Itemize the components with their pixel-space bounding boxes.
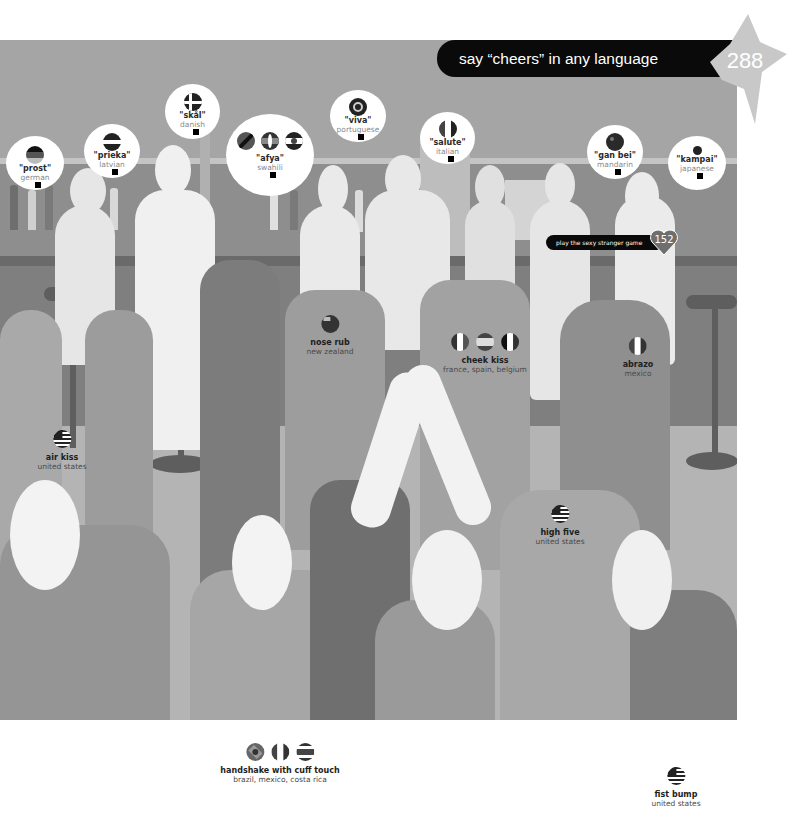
page-title-banner: say “cheers” in any language: [437, 40, 737, 77]
toast-language: portuguese: [330, 125, 386, 134]
greeting-countries: united states: [535, 537, 584, 546]
greeting-label-handshake: handshake with cuff touch brazil, mexico…: [220, 743, 339, 784]
flag-portugal-icon: [349, 98, 367, 116]
greeting-countries: united states: [651, 799, 700, 808]
toast-language: japanese: [668, 164, 726, 173]
flag-japan-icon: [693, 146, 702, 155]
greeting-title: nose rub: [306, 338, 353, 347]
greeting-title: high five: [535, 528, 584, 537]
toast-bubble-japanese: "kampai" japanese: [668, 136, 726, 190]
flag-mexico-icon: [629, 337, 647, 355]
greeting-label-cheek-kiss: cheek kiss france, spain, belgium: [443, 333, 527, 374]
toast-language: swahili: [226, 163, 314, 172]
toast-phrase: "gan bei": [587, 151, 643, 160]
toast-phrase: "kampai": [668, 155, 726, 164]
greeting-countries: france, spain, belgium: [443, 365, 527, 374]
person-head: [625, 172, 659, 220]
person-head: [612, 530, 672, 630]
bottle: [28, 190, 36, 230]
greeting-countries: united states: [37, 462, 86, 471]
greeting-title: handshake with cuff touch: [220, 766, 339, 775]
flag-latvia-icon: [103, 133, 121, 151]
person-head: [385, 155, 421, 203]
flag-china-icon: [606, 133, 624, 151]
flag-group: [226, 132, 314, 150]
bottle: [290, 190, 298, 230]
person-head: [318, 165, 348, 213]
greeting-label-abrazo: abrazo mexico: [623, 337, 654, 378]
toast-language: german: [6, 173, 64, 182]
person-head: [545, 163, 575, 207]
flag-denmark-icon: [184, 93, 202, 111]
greeting-label-nose-rub: nose rub new zealand: [306, 315, 353, 356]
page-number-badge: 288: [710, 14, 787, 124]
flag-new-zealand-icon: [321, 315, 339, 333]
person-head: [475, 165, 505, 209]
toast-language: danish: [165, 120, 220, 129]
greeting-countries: mexico: [623, 369, 654, 378]
greeting-countries: new zealand: [306, 347, 353, 356]
flag-spain-icon: [476, 333, 494, 351]
greeting-title: air kiss: [37, 453, 86, 462]
bottle: [45, 185, 53, 230]
person-head: [155, 145, 191, 195]
flag-belgium-icon: [501, 333, 519, 351]
toast-bubble-latvian: "prieka" latvian: [84, 124, 140, 178]
flag-united-states-icon: [551, 505, 569, 523]
toast-language: mandarin: [587, 160, 643, 169]
flag-france-icon: [451, 333, 469, 351]
page-number: 288: [710, 48, 780, 74]
greeting-countries: brazil, mexico, costa rica: [220, 775, 339, 784]
toast-bubble-italian: "salute" italian: [420, 112, 475, 164]
flag-brazil-icon: [246, 743, 264, 761]
flag-germany-icon: [26, 146, 44, 164]
greeting-label-fist-bump: fist bump united states: [651, 767, 700, 808]
flag-italy-icon: [439, 120, 457, 138]
bar-stool-base: [686, 452, 737, 470]
toast-phrase: "skål": [165, 111, 220, 120]
greeting-title: fist bump: [651, 790, 700, 799]
toast-language: latvian: [84, 160, 140, 169]
cross-reference-link[interactable]: play the sexy stranger game: [546, 235, 664, 250]
toast-bubble-mandarin: "gan bei" mandarin: [587, 125, 643, 179]
bottle: [270, 190, 278, 230]
cross-reference-page: 152: [649, 234, 679, 245]
flag-costa-rica-icon: [296, 743, 314, 761]
toast-bubble-swahili: "afya" swahili: [226, 114, 314, 196]
person-head: [412, 530, 482, 630]
flag-uganda-icon: [285, 132, 303, 150]
greeting-title: abrazo: [623, 360, 654, 369]
toast-bubble-german: "prost" german: [6, 136, 64, 190]
flag-kenya-icon: [261, 132, 279, 150]
toast-phrase: "salute": [420, 138, 475, 147]
person-head: [232, 515, 292, 610]
greeting-label-high-five: high five united states: [535, 505, 584, 546]
flag-united-states-icon: [667, 767, 685, 785]
toast-phrase: "afya": [226, 154, 314, 163]
toast-bubble-portuguese: "viva" portuguese: [330, 90, 386, 142]
flag-mexico-icon: [271, 743, 289, 761]
flag-united-states-icon: [53, 430, 71, 448]
toast-phrase: "prieka": [84, 151, 140, 160]
toast-bubble-danish: "skål" danish: [165, 84, 220, 139]
greeting-label-air-kiss: air kiss united states: [37, 430, 86, 471]
toast-phrase: "prost": [6, 164, 64, 173]
person-head: [10, 480, 80, 590]
toast-phrase: "viva": [330, 116, 386, 125]
greeting-title: cheek kiss: [443, 356, 527, 365]
flag-tanzania-icon: [237, 132, 255, 150]
bar-stool: [712, 306, 718, 456]
cross-reference-heart[interactable]: 152: [649, 228, 679, 256]
bottle: [10, 185, 18, 230]
toast-language: italian: [420, 147, 475, 156]
